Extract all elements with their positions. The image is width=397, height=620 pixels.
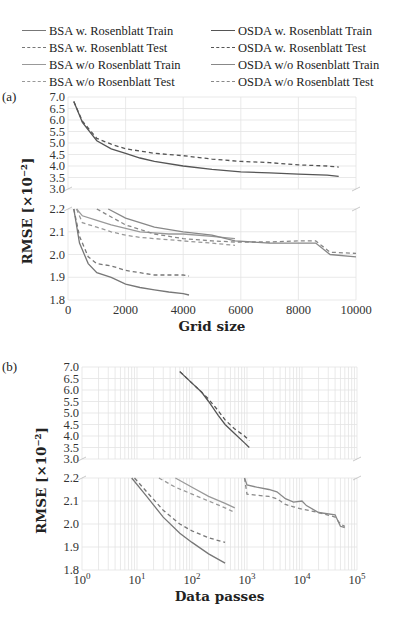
x-tick-label: 102: [184, 571, 201, 587]
x-tick-label: 2000: [113, 303, 138, 317]
y-tick-label: 3.0: [63, 452, 79, 466]
plot-a: 7.06.56.05.55.04.54.03.53.02.22.12.01.91…: [2, 89, 372, 334]
y-tick-label: 2.0: [49, 248, 65, 262]
x-axis-label: Grid size: [179, 318, 246, 334]
x-tick-label: 104: [294, 571, 312, 587]
x-tick-label: 100: [74, 571, 92, 587]
y-tick-label: 2.2: [63, 471, 79, 485]
x-tick-label: 101: [129, 571, 146, 587]
y-tick-label: 1.9: [49, 270, 65, 284]
series-line: [74, 209, 189, 295]
x-tick-label: 8000: [286, 303, 311, 317]
y-tick-label: 2.0: [63, 517, 79, 531]
panel-tag: (b): [2, 359, 17, 374]
y-tick-label: 2.2: [49, 202, 65, 216]
series-line: [74, 102, 339, 168]
series-line: [245, 478, 345, 528]
y-tick-label: 1.8: [49, 293, 65, 307]
series-line: [175, 478, 234, 508]
y-tick-label: 2.1: [63, 494, 79, 508]
x-tick-label: 4000: [171, 303, 196, 317]
x-tick-label: 0: [65, 303, 71, 317]
y-tick-label: 2.1: [49, 225, 65, 239]
chart-canvas: 7.06.56.05.55.04.54.03.53.02.22.12.01.91…: [0, 0, 397, 620]
x-axis-label: Data passes: [175, 588, 265, 604]
x-tick-label: 105: [349, 571, 367, 587]
y-axis-label: RMSE [×10⁻²]: [19, 158, 35, 265]
series-line: [108, 209, 356, 257]
y-axis-label: RMSE [×10⁻²]: [33, 427, 49, 534]
y-tick-label: 1.9: [63, 540, 79, 554]
plot-b: 7.06.56.05.55.04.54.03.53.02.22.12.01.91…: [2, 359, 366, 604]
x-tick-label: 6000: [228, 303, 253, 317]
panel-tag: (a): [2, 89, 16, 104]
y-tick-label: 3.0: [49, 182, 65, 196]
x-tick-label: 10000: [340, 303, 371, 317]
x-tick-label: 103: [239, 571, 257, 587]
